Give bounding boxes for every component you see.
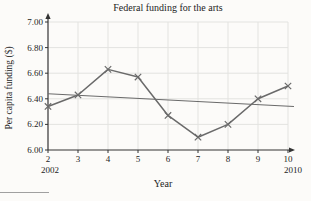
- x-tick-label: 8: [226, 154, 231, 164]
- x-tick-label: 10: [284, 154, 294, 164]
- chart-title: Federal funding for the arts: [113, 2, 223, 13]
- x-axis-arrow: [289, 147, 295, 152]
- y-tick-label: 6.60: [27, 68, 43, 78]
- y-axis-label: Per capita funding ($): [4, 46, 15, 129]
- x-axis-label: Year: [154, 178, 173, 189]
- y-tick-label: 6.40: [27, 94, 43, 104]
- line-chart: 23456789106.006.206.406.606.807.00 Feder…: [0, 0, 311, 201]
- y-tick-label: 7.00: [27, 17, 43, 27]
- x-tick-label: 9: [256, 154, 261, 164]
- x-start-year-label: 2002: [41, 165, 59, 175]
- x-tick-label: 7: [196, 154, 201, 164]
- y-tick-label: 6.20: [27, 119, 43, 129]
- x-tick-label: 3: [76, 154, 81, 164]
- arts-funding-figure: 23456789106.006.206.406.606.807.00 Feder…: [0, 0, 311, 201]
- y-tick-label: 6.00: [27, 145, 43, 155]
- x-tick-label: 2: [46, 154, 51, 164]
- chart-generated-layer: 23456789106.006.206.406.606.807.00: [27, 13, 295, 164]
- x-tick-label: 4: [106, 154, 111, 164]
- x-tick-label: 5: [136, 154, 141, 164]
- y-tick-label: 6.80: [27, 43, 43, 53]
- x-tick-label: 6: [166, 154, 171, 164]
- y-axis-arrow: [45, 13, 50, 19]
- x-end-year-label: 2010: [284, 165, 303, 175]
